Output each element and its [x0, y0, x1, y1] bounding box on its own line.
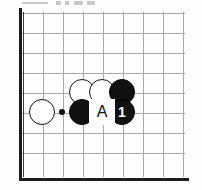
- gridline-vertical-2: [63, 12, 64, 177]
- gridline-horizontal-6: [22, 133, 185, 134]
- left-board-edge: [19, 8, 22, 180]
- gridline-horizontal-3: [22, 73, 185, 74]
- point-label-a: A: [89, 99, 115, 125]
- gridline-horizontal-0: [22, 13, 185, 14]
- white-stone-3[interactable]: [29, 99, 55, 125]
- gridline-horizontal-2: [22, 53, 185, 54]
- gridline-horizontal-1: [22, 33, 185, 34]
- gridline-vertical-1: [43, 12, 44, 177]
- gridline-vertical-8: [183, 12, 184, 177]
- go-board[interactable]: 1 A: [22, 12, 185, 177]
- bottom-board-edge: [19, 178, 189, 181]
- gridline-vertical-7: [163, 12, 164, 177]
- star-point-icon: [59, 109, 65, 115]
- gridline-vertical-6: [143, 12, 144, 177]
- gridline-horizontal-7: [22, 153, 185, 154]
- clipped-caption-artifact: [22, 0, 100, 6]
- stone-move-number: 1: [118, 105, 126, 119]
- go-diagram-figure: 1 A: [0, 0, 202, 190]
- gridline-vertical-0: [23, 12, 24, 177]
